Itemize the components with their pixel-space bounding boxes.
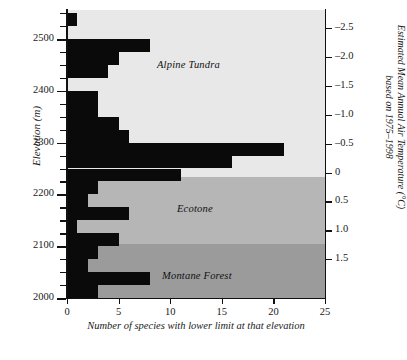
y2-axis-tick-label: 1.0 bbox=[335, 223, 348, 234]
x-axis-line bbox=[66, 298, 326, 300]
x-axis-tick bbox=[273, 298, 274, 304]
plot-area: Alpine TundraEcotoneMontane Forest bbox=[67, 10, 325, 298]
x-axis-tick-label: 20 bbox=[253, 306, 293, 317]
bar bbox=[67, 194, 88, 207]
y-axis-minor-tick bbox=[60, 78, 66, 79]
bar bbox=[67, 233, 119, 246]
zone-label-alpine-tundra: Alpine Tundra bbox=[157, 59, 220, 70]
y2-axis-tick bbox=[326, 28, 332, 29]
y2-axis-tick-label: –2.0 bbox=[335, 50, 353, 61]
y2-axis-tick bbox=[326, 201, 332, 202]
bar bbox=[67, 272, 150, 285]
y-axis-minor-tick bbox=[60, 156, 66, 157]
x-axis-tick bbox=[325, 298, 326, 304]
bar bbox=[67, 13, 77, 26]
x-axis-tick bbox=[119, 298, 120, 304]
x-axis-tick-label: 15 bbox=[202, 306, 242, 317]
y-axis-title: Elevation (m) bbox=[30, 76, 42, 196]
bar bbox=[67, 143, 284, 156]
y-axis-minor-tick bbox=[60, 169, 66, 170]
y-axis-minor-tick bbox=[60, 130, 66, 131]
y-axis-minor-tick bbox=[60, 13, 66, 14]
y-axis-minor-tick bbox=[60, 65, 66, 66]
bar bbox=[67, 39, 150, 52]
y2-axis-tick-label: 1.5 bbox=[335, 252, 348, 263]
x-axis-tick bbox=[170, 298, 171, 304]
y-axis-major-tick bbox=[57, 194, 66, 196]
y2-axis-title: Estimated Mean Annual Air Temperature (°… bbox=[383, 22, 407, 212]
y2-axis-title-text: Estimated Mean Annual Air Temperature (°… bbox=[384, 25, 407, 209]
y2-axis-tick bbox=[326, 115, 332, 116]
y2-axis-tick bbox=[326, 57, 332, 58]
y2-axis-tick bbox=[326, 144, 332, 145]
y-axis-minor-tick bbox=[60, 272, 66, 273]
bar bbox=[67, 207, 129, 220]
y-axis-minor-tick bbox=[60, 259, 66, 260]
y-axis-major-tick bbox=[57, 91, 66, 93]
y-axis-minor-tick bbox=[60, 233, 66, 234]
bar bbox=[67, 220, 77, 233]
y2-axis-tick bbox=[326, 173, 332, 174]
y-axis-tick-label: 2500 bbox=[10, 32, 54, 43]
y-axis-minor-tick bbox=[60, 220, 66, 221]
y-axis-minor-tick bbox=[60, 26, 66, 27]
bar bbox=[67, 104, 98, 117]
y-axis-major-tick bbox=[57, 143, 66, 145]
y2-axis-tick bbox=[326, 230, 332, 231]
bar bbox=[67, 117, 119, 130]
x-axis-tick-label: 10 bbox=[150, 306, 190, 317]
y2-axis-tick-label: –1.0 bbox=[335, 108, 353, 119]
y-axis-line bbox=[66, 9, 68, 299]
zone-label-ecotone: Ecotone bbox=[177, 203, 213, 214]
bar bbox=[67, 91, 98, 104]
y-axis-minor-tick bbox=[60, 52, 66, 53]
y-axis-minor-tick bbox=[60, 104, 66, 105]
bar bbox=[67, 156, 232, 169]
zone-label-montane-forest: Montane Forest bbox=[162, 270, 232, 281]
bar bbox=[67, 169, 181, 182]
y2-axis-tick-label: 0 bbox=[335, 166, 340, 177]
y2-axis-tick-label: –1.5 bbox=[335, 79, 353, 90]
y-axis-tick-label: 2100 bbox=[10, 239, 54, 250]
y-axis-major-tick bbox=[57, 39, 66, 41]
y-axis-major-tick bbox=[57, 298, 66, 300]
bar bbox=[67, 259, 88, 272]
y2-axis-tick-label: –0.5 bbox=[335, 137, 353, 148]
y2-axis-tick-label: –2.5 bbox=[335, 21, 353, 32]
bar bbox=[67, 285, 98, 298]
y-axis-minor-tick bbox=[60, 285, 66, 286]
y-axis-minor-tick bbox=[60, 181, 66, 182]
x-axis-tick-label: 0 bbox=[47, 306, 87, 317]
y2-axis-tick bbox=[326, 259, 332, 260]
y2-axis-tick bbox=[326, 86, 332, 87]
y-axis-tick-label: 2000 bbox=[10, 291, 54, 302]
x-axis-tick bbox=[222, 298, 223, 304]
bar bbox=[67, 246, 98, 259]
y2-axis-line bbox=[325, 9, 327, 299]
y2-axis-tick-label: 0.5 bbox=[335, 194, 348, 205]
bar bbox=[67, 130, 129, 143]
y-axis-minor-tick bbox=[60, 117, 66, 118]
bar bbox=[67, 65, 108, 78]
y-axis-minor-tick bbox=[60, 207, 66, 208]
bar bbox=[67, 52, 119, 65]
x-axis-title: Number of species with lower limit at th… bbox=[67, 320, 325, 333]
x-axis-tick-label: 25 bbox=[305, 306, 345, 317]
bar bbox=[67, 181, 98, 194]
x-axis-tick bbox=[67, 298, 68, 304]
x-axis-tick-label: 5 bbox=[99, 306, 139, 317]
y-axis-major-tick bbox=[57, 246, 66, 248]
